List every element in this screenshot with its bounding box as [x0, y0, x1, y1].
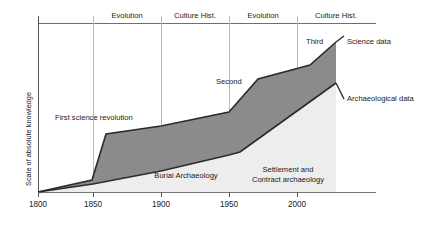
y-axis-label: Scale of absolute knowledge	[24, 92, 33, 186]
archaeology-label-leader	[336, 83, 344, 99]
series-label-archaeological-data: Archaeological data	[347, 95, 414, 104]
period-band-label-evolution-1: Evolution	[111, 12, 142, 21]
x-tick-label-1950: 1950	[220, 200, 238, 209]
series-label-science-data: Science data	[347, 38, 391, 47]
x-tick-label-1850: 1850	[84, 200, 102, 209]
x-tick-label-1900: 1900	[152, 200, 170, 209]
zone-label-burial-archaeology: Burial Archaeology	[154, 172, 217, 181]
annotation-first-science-revolution: First science revolution	[55, 114, 133, 123]
science-label-leader	[336, 36, 344, 42]
period-band-label-culture-hist-1: Culture Hist.	[174, 12, 216, 21]
period-band-label-evolution-2: Evolution	[247, 12, 278, 21]
x-tick-label-1800: 1800	[29, 200, 47, 209]
annotation-second: Second	[216, 78, 242, 87]
zone-label-settlement-line1: Settlement and	[262, 166, 313, 175]
chart-figure: Scale of absolute knowledge Evolution Cu…	[0, 0, 424, 227]
period-band-label-culture-hist-2: Culture Hist.	[315, 12, 357, 21]
zone-label-settlement-line2: Contract archaeology	[252, 176, 324, 185]
x-tick-label-2000: 2000	[288, 200, 306, 209]
annotation-third: Third	[306, 38, 323, 47]
